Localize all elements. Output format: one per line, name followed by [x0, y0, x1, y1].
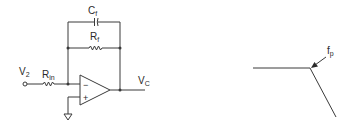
arrow-shaft — [315, 57, 326, 65]
inverting-input-sign: − — [83, 80, 88, 90]
junction-dot — [67, 83, 70, 86]
noninverting-input-sign: + — [83, 93, 88, 103]
rin-resistor-zigzag — [43, 82, 54, 86]
cf-label: Cf — [88, 5, 97, 17]
noninverting-ground-wire — [68, 97, 80, 114]
fp-label: fp — [327, 45, 334, 58]
junction-dot — [119, 89, 122, 92]
arrow-head-icon — [311, 62, 318, 68]
cf-right-wire — [98, 22, 120, 48]
op-amp: − + — [80, 75, 110, 105]
v2-label: V2 — [19, 66, 30, 78]
input-section: V2 Rin — [19, 66, 80, 86]
vc-label: VC — [138, 75, 150, 87]
rf-resistor-zigzag — [89, 46, 102, 50]
frequency-response-plot: fp — [253, 45, 336, 117]
ground-section — [64, 97, 80, 120]
output-section: VC — [110, 75, 150, 92]
pole-frequency-arrow — [311, 57, 326, 68]
ground-icon — [64, 114, 72, 120]
rolloff-segment — [310, 68, 336, 117]
capacitor-plate-right — [97, 18, 98, 26]
rin-label: Rin — [42, 69, 55, 81]
rf-label: Rf — [90, 31, 99, 43]
circuit-schematic: Cf Rf V2 Rin − + — [19, 5, 150, 120]
diagram-canvas: Cf Rf V2 Rin − + — [0, 0, 360, 130]
input-terminal — [23, 82, 27, 86]
feedback-resistor-branch: Rf — [67, 31, 122, 50]
